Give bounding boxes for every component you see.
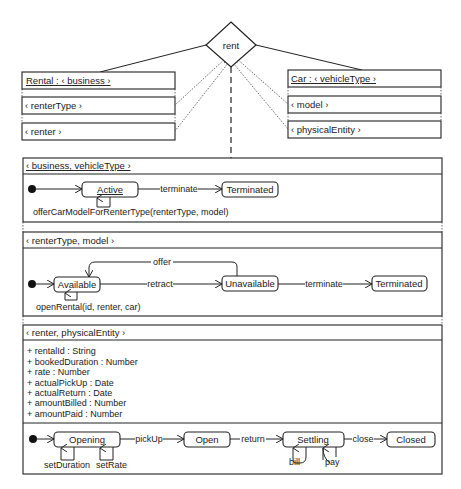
svg-text:Terminated: Terminated xyxy=(376,278,423,289)
car-qualifier-physicalEntity: ‹ physicalEntity › xyxy=(291,124,361,135)
rental-qualifier-renter: ‹ renter › xyxy=(25,126,61,137)
attribute-amountPaid: + amountPaid : Number xyxy=(27,409,122,419)
section-renter-physicalEntity: ‹ renter, physicalEntity › + rentalId : … xyxy=(23,316,442,474)
rental-qualifier-renterType: ‹ renterType › xyxy=(25,100,82,111)
uml-diagram-canvas: rent Rental : ‹ business › ‹ renterType … xyxy=(0,0,461,489)
initial-state-1 xyxy=(28,185,36,193)
state-active[interactable]: Active xyxy=(82,182,138,197)
state-closed[interactable]: Closed xyxy=(387,432,435,447)
svg-text:Active: Active xyxy=(97,184,123,195)
self-transition-pay: pay xyxy=(325,457,340,467)
association-name: rent xyxy=(223,40,240,51)
state-terminated-1[interactable]: Terminated xyxy=(222,182,278,197)
svg-text:Settling: Settling xyxy=(297,434,329,445)
attribute-rate: + rate : Number xyxy=(27,367,90,377)
state-available[interactable]: Available xyxy=(54,277,100,292)
state-terminated-2[interactable]: Terminated xyxy=(372,276,427,291)
attribute-actualReturn: + actualReturn : Date xyxy=(27,388,112,398)
initial-state-3 xyxy=(29,435,37,443)
self-transition-offerCarModel: offerCarModelForRenterType(renterType, m… xyxy=(33,207,228,217)
svg-text:Unavailable: Unavailable xyxy=(225,278,275,289)
svg-text:Terminated: Terminated xyxy=(227,184,274,195)
transition-retract: retract xyxy=(147,279,173,289)
section-business-vehicleType: ‹ business, vehicleType › Active termina… xyxy=(23,158,442,222)
section-1-header: ‹ business, vehicleType › xyxy=(26,160,131,171)
transition-pickUp: pickUp xyxy=(135,434,163,444)
attribute-bookedDuration: + bookedDuration : Number xyxy=(27,357,138,367)
self-transition-setDuration: setDuration xyxy=(44,460,90,470)
transition-close: close xyxy=(352,434,373,444)
rental-class-header: Rental : ‹ business › xyxy=(26,75,110,86)
section-3-header: ‹ renter, physicalEntity › xyxy=(26,327,125,338)
svg-text:Open: Open xyxy=(195,434,218,445)
transition-terminate-1: terminate xyxy=(160,184,198,194)
transition-return: return xyxy=(241,434,265,444)
state-unavailable[interactable]: Unavailable xyxy=(222,276,278,291)
state-open[interactable]: Open xyxy=(184,432,230,447)
svg-text:Available: Available xyxy=(58,279,96,290)
state-opening[interactable]: Opening xyxy=(54,432,120,447)
self-transition-openRental: openRental(id, renter, car) xyxy=(36,302,141,312)
association-diamond[interactable]: rent xyxy=(206,22,256,67)
transition-terminate-2: terminate xyxy=(305,279,343,289)
transition-offer: offer xyxy=(153,257,171,267)
section-renterType-model: ‹ renterType, model › Available offer re… xyxy=(23,222,442,316)
section-2-header: ‹ renterType, model › xyxy=(26,235,114,246)
state-settling[interactable]: Settling xyxy=(283,432,344,447)
self-transition-bill: bill xyxy=(289,457,300,467)
svg-text:Opening: Opening xyxy=(69,434,105,445)
attribute-actualPickUp: + actualPickUp : Date xyxy=(27,378,114,388)
svg-text:Closed: Closed xyxy=(396,434,426,445)
car-qualifier-model: ‹ model › xyxy=(291,99,328,110)
car-class-header: Car : ‹ vehicleType › xyxy=(291,73,376,84)
attribute-rentalId: + rentalId : String xyxy=(27,346,96,356)
rental-class[interactable]: Rental : ‹ business › ‹ renterType › ‹ r… xyxy=(22,72,175,140)
car-class[interactable]: Car : ‹ vehicleType › ‹ model › ‹ physic… xyxy=(288,70,441,138)
self-transition-setRate: setRate xyxy=(96,460,127,470)
attribute-amountBilled: + amountBilled : Number xyxy=(27,398,126,408)
initial-state-2 xyxy=(28,280,36,288)
